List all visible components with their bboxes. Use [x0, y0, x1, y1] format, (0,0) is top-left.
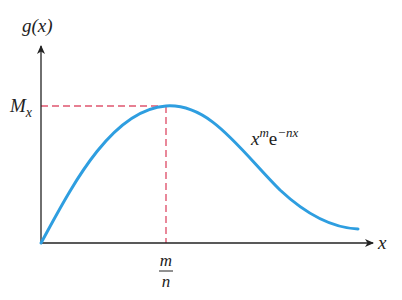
tick-denominator: n: [162, 272, 171, 291]
diagram-canvas: g(x) x Mx m n xme−nx: [0, 0, 402, 300]
tick-numerator: m: [160, 251, 172, 270]
max-label: Mx: [9, 95, 33, 120]
function-curve: [41, 106, 358, 243]
y-axis-label: g(x): [22, 15, 53, 37]
x-axis-label: x: [377, 232, 387, 253]
curve-label: xme−nx: [250, 125, 299, 149]
